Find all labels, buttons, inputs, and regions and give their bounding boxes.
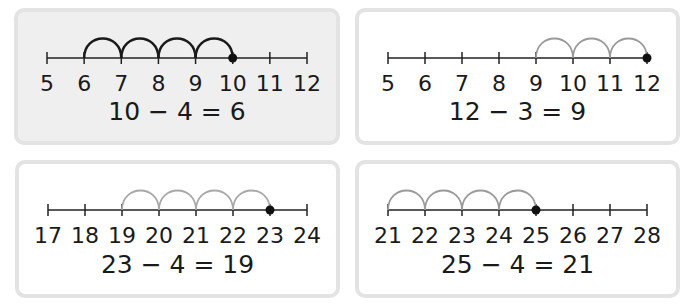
number-line-panel-bottom-left: 171819202122232423 − 4 = 19 xyxy=(15,160,340,298)
jump-arc xyxy=(499,191,536,211)
tick-label: 10 xyxy=(219,71,247,96)
tick-label: 20 xyxy=(145,223,173,248)
start-point-dot xyxy=(643,54,652,63)
tick-label: 23 xyxy=(256,223,284,248)
tick-label: 9 xyxy=(529,71,543,96)
jump-arc xyxy=(388,191,425,211)
tick-label: 6 xyxy=(418,71,432,96)
tick-label: 25 xyxy=(522,223,550,248)
equation: 10 − 4 = 6 xyxy=(18,97,336,126)
jump-arc xyxy=(158,39,195,59)
tick-label: 11 xyxy=(256,71,284,96)
jump-arc xyxy=(610,39,647,59)
tick-label: 18 xyxy=(71,223,99,248)
jump-arc xyxy=(196,191,233,211)
tick-label: 12 xyxy=(633,71,661,96)
tick-label: 27 xyxy=(596,223,624,248)
tick-label: 12 xyxy=(293,71,321,96)
tick-label: 5 xyxy=(40,71,54,96)
tick-label: 24 xyxy=(293,223,321,248)
tick-label: 26 xyxy=(559,223,587,248)
tick-label: 17 xyxy=(34,223,62,248)
start-point-dot xyxy=(228,54,237,63)
tick-label: 23 xyxy=(448,223,476,248)
tick-label: 19 xyxy=(108,223,136,248)
tick-label: 24 xyxy=(485,223,513,248)
tick-label: 22 xyxy=(219,223,247,248)
tick-label: 8 xyxy=(151,71,165,96)
jump-arc xyxy=(425,191,462,211)
tick-label: 21 xyxy=(182,223,210,248)
number-line-panel-top-left: 5678910111210 − 4 = 6 xyxy=(14,8,340,145)
tick-label: 5 xyxy=(381,71,395,96)
start-point-dot xyxy=(266,206,275,215)
tick-label: 9 xyxy=(189,71,203,96)
jump-arc xyxy=(122,191,159,211)
tick-label: 10 xyxy=(559,71,587,96)
jump-arc xyxy=(84,39,121,59)
tick-label: 8 xyxy=(492,71,506,96)
tick-label: 11 xyxy=(596,71,624,96)
number-line-panel-top-right: 5678910111212 − 3 = 9 xyxy=(355,8,680,145)
tick-label: 22 xyxy=(411,223,439,248)
tick-label: 7 xyxy=(455,71,469,96)
start-point-dot xyxy=(532,206,541,215)
tick-label: 28 xyxy=(633,223,661,248)
jump-arc xyxy=(121,39,158,59)
equation: 25 − 4 = 21 xyxy=(359,250,676,279)
jump-arc xyxy=(196,39,233,59)
tick-label: 21 xyxy=(374,223,402,248)
equation: 12 − 3 = 9 xyxy=(359,97,676,126)
jump-arc xyxy=(159,191,196,211)
equation: 23 − 4 = 19 xyxy=(19,250,336,279)
jump-arc xyxy=(233,191,270,211)
jump-arc xyxy=(462,191,499,211)
number-line-panel-bottom-right: 212223242526272825 − 4 = 21 xyxy=(355,160,680,298)
tick-label: 7 xyxy=(114,71,128,96)
tick-label: 6 xyxy=(77,71,91,96)
jump-arc xyxy=(573,39,610,59)
jump-arc xyxy=(536,39,573,59)
